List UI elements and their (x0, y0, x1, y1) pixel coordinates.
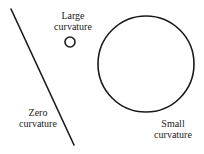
small-curvature-label: Small curvature (153, 118, 193, 140)
label-line: curvature (153, 129, 193, 140)
small-curvature-circle (98, 16, 194, 112)
large-curvature-label: Large curvature (53, 10, 93, 32)
label-line: Large (53, 10, 93, 21)
label-line: Small (153, 118, 193, 129)
large-curvature-circle (65, 37, 75, 47)
zero-curvature-label: Zero curvature (18, 107, 58, 129)
curvature-diagram: Large curvature Zero curvature Small cur… (0, 0, 204, 154)
label-line: curvature (18, 118, 58, 129)
label-line: Zero (18, 107, 58, 118)
label-line: curvature (53, 21, 93, 32)
